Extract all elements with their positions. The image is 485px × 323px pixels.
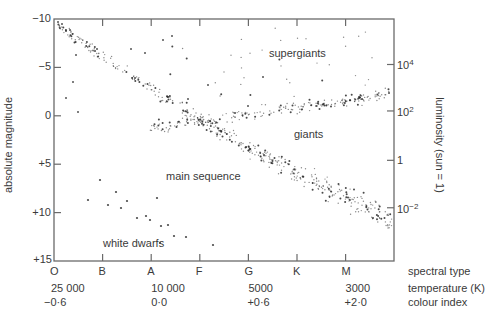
main-sequence-label: main sequence	[166, 170, 241, 182]
left-tick-label: +5	[11, 158, 51, 169]
colour-index-tick-label: 0·0	[151, 297, 167, 308]
colour-index-tick-label: +0·6	[247, 297, 269, 308]
right-tick-label: 104	[397, 59, 414, 71]
spectral-type-tick-label: K	[293, 266, 300, 277]
spectral-type-label: spectral type	[408, 266, 470, 277]
giants-label: giants	[294, 128, 323, 140]
colour-index-tick-label: +2·0	[345, 297, 367, 308]
left-tick-label: +10	[11, 207, 51, 218]
axis-ticks	[54, 19, 394, 261]
temperature-tick-label: 5000	[248, 283, 272, 294]
spectral-type-tick-label: G	[244, 266, 253, 277]
star-points	[57, 21, 392, 246]
spectral-type-tick-label: B	[99, 266, 106, 277]
left-tick-label: +15	[12, 254, 52, 265]
white-dwarfs-label: white dwarfs	[103, 237, 164, 249]
temperature-tick-label: 3000	[346, 283, 370, 294]
plot-frame	[54, 19, 394, 261]
left-tick-label: −5	[11, 61, 51, 72]
temperature-label: temperature (K)	[408, 283, 485, 294]
spectral-type-tick-label: O	[50, 266, 59, 277]
right-tick-label: 1	[397, 155, 403, 166]
temperature-tick-label: 10 000	[151, 283, 185, 294]
spectral-type-tick-label: A	[147, 266, 154, 277]
right-tick-label: 102	[397, 106, 414, 118]
colour-index-tick-label: −0·6	[44, 297, 66, 308]
left-tick-label: 0	[11, 110, 51, 121]
spectral-type-tick-label: F	[196, 266, 203, 277]
left-tick-label: −10	[11, 13, 51, 24]
spectral-type-tick-label: M	[342, 266, 351, 277]
right-tick-label: 10−2	[397, 203, 418, 215]
y-axis-label-right: luminosity (sun = 1)	[434, 97, 446, 193]
colour-index-label: colour index	[408, 297, 467, 308]
temperature-tick-label: 25 000	[51, 283, 85, 294]
supergiants-label: supergiants	[269, 47, 326, 59]
